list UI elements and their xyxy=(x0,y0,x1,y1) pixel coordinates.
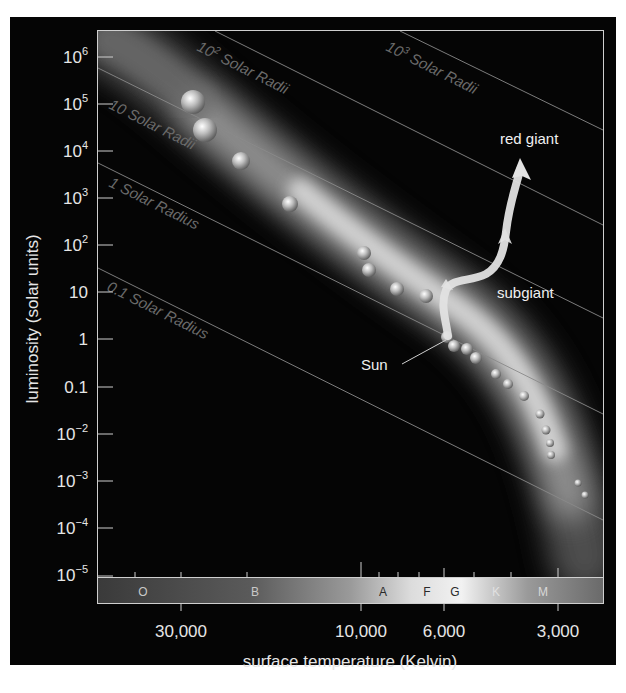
y-tick-1e2: 102 xyxy=(63,233,88,255)
radius-label-1000: 103 Solar Radii xyxy=(384,37,482,98)
annotation-red-giant: red giant xyxy=(500,130,559,147)
y-tick-1e-5: 10−5 xyxy=(57,563,88,585)
star xyxy=(470,352,482,364)
y-tick-1e5: 105 xyxy=(63,92,88,114)
star xyxy=(181,90,205,114)
star xyxy=(547,451,555,459)
x-tick-30000: 30,000 xyxy=(155,622,207,641)
radius-label-0.1: 0.1 Solar Radius xyxy=(105,277,212,342)
star xyxy=(536,410,545,419)
sun-leader-line xyxy=(402,340,446,364)
y-tick-10: 10 xyxy=(69,283,88,302)
star xyxy=(503,379,513,389)
hr-diagram: 0.1 Solar Radius 1 Solar Radius 10 Solar… xyxy=(0,0,626,693)
star xyxy=(582,492,589,499)
y-tick-1e-4: 10−4 xyxy=(57,516,88,538)
star xyxy=(448,340,460,352)
radius-line-1000 xyxy=(400,31,603,130)
y-tick-1e6: 106 xyxy=(63,45,88,67)
x-axis-label: surface temperature (Kelvin) xyxy=(243,652,457,671)
y-tick-1e4: 104 xyxy=(63,139,88,161)
radius-label-1: 1 Solar Radius xyxy=(107,173,203,232)
star xyxy=(419,289,433,303)
star xyxy=(519,391,529,401)
star xyxy=(461,343,473,355)
star xyxy=(357,246,371,260)
spectral-A: A xyxy=(379,585,387,599)
star xyxy=(575,480,582,487)
spectral-class-bar xyxy=(98,578,603,603)
x-tick-labels: 30,000 10,000 6,000 3,000 xyxy=(155,622,579,641)
spectral-B: B xyxy=(251,585,259,599)
y-tick-marks xyxy=(98,57,113,576)
annotation-subgiant: subgiant xyxy=(497,284,555,301)
y-tick-0.1: 0.1 xyxy=(64,378,88,397)
spectral-G: G xyxy=(450,585,459,599)
y-tick-1e3: 103 xyxy=(63,186,88,208)
annotation-sun: Sun xyxy=(361,356,388,373)
x-tick-6000: 6,000 xyxy=(423,622,466,641)
star xyxy=(542,426,551,435)
star xyxy=(362,263,376,277)
star xyxy=(546,439,554,447)
star xyxy=(491,369,501,379)
y-tick-labels: 106 105 104 103 102 10 1 0.1 10−2 10−3 1… xyxy=(57,45,88,585)
x-tick-10000: 10,000 xyxy=(335,622,387,641)
radius-line-10 xyxy=(98,68,603,318)
star xyxy=(282,196,298,212)
spectral-M: M xyxy=(538,585,548,599)
y-tick-1e-2: 10−2 xyxy=(57,422,88,444)
x-tick-3000: 3,000 xyxy=(537,622,580,641)
star xyxy=(232,152,250,170)
y-axis-label: luminosity (solar units) xyxy=(23,234,42,403)
spectral-O: O xyxy=(138,585,147,599)
spectral-K: K xyxy=(492,585,500,599)
spectral-F: F xyxy=(423,585,430,599)
y-tick-1: 1 xyxy=(79,330,88,349)
y-tick-1e-3: 10−3 xyxy=(57,469,88,491)
star xyxy=(390,282,404,296)
